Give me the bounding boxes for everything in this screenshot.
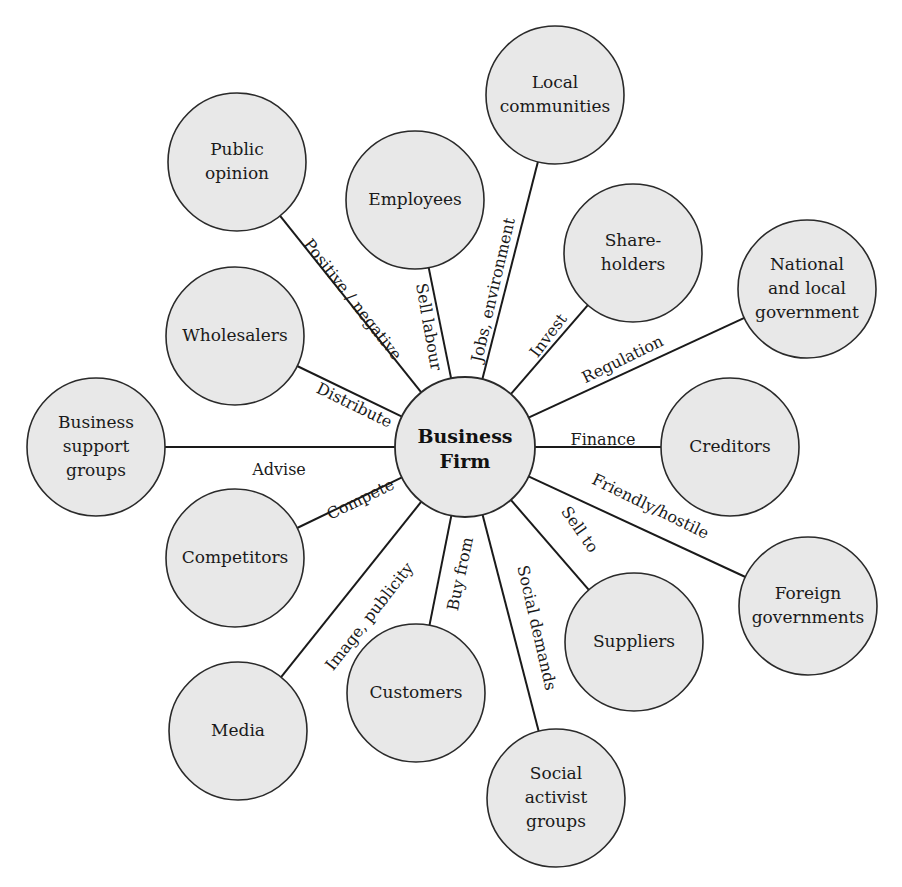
node-label-line: Customers [370,682,463,702]
node-creditors: Creditors [661,378,799,516]
node-customers: Customers [347,624,485,762]
edge-label: Distribute [314,379,396,432]
node-label-line: government [755,302,859,322]
node-label-line: Local [532,72,579,92]
edge-label: Advise [251,460,306,479]
node-label-line: groups [526,811,586,831]
node-wholesalers: Wholesalers [166,267,304,405]
node-label-line: opinion [205,163,269,183]
edge-label: Invest [526,309,571,361]
edge-label: Finance [571,430,636,449]
node-label-line: Public [210,139,264,159]
node-label-line: Employees [368,189,462,209]
edge-label: Compete [324,475,398,524]
edge-shareholders: Invest [511,305,588,394]
hub-label-line1: Business [417,425,512,447]
stakeholder-diagram: Positive / negativeSell labourJobs, envi… [0,0,902,887]
edge-social-activist-groups: Social demands [483,515,561,731]
node-label-line: Social [530,763,582,783]
node-foreign-governments: Foreigngovernments [739,537,877,675]
edge-label: Social demands [513,563,560,692]
node-label-line: Share- [605,230,662,250]
edge-label: Buy from [443,535,477,612]
node-public-opinion: Publicopinion [168,93,306,231]
diagram-canvas: Positive / negativeSell labourJobs, envi… [0,0,902,887]
hub-label-line2: Firm [440,450,491,472]
edge-customers: Buy from [429,516,477,626]
edge-business-support-groups: Advise [165,447,395,479]
node-label-line: Media [211,720,265,740]
edge-competitors: Compete [297,475,402,528]
node-social-activist-groups: Socialactivistgroups [487,729,625,867]
node-label-line: Suppliers [593,631,675,651]
node-local-communities: Localcommunities [486,26,624,164]
node-label-line: communities [500,96,610,116]
node-label-line: Wholesalers [182,325,287,345]
node-label-line: holders [601,254,665,274]
node-label-line: and local [768,278,846,298]
node-label-line: Foreign [775,583,842,603]
edge-wholesalers: Distribute [297,366,402,432]
node-label-line: activist [525,787,588,807]
node-business-support-groups: Businesssupportgroups [27,378,165,516]
node-label-line: Competitors [182,547,289,567]
edge-label: Jobs, environment [467,215,519,366]
hub-circle [395,377,535,517]
edge-label: Sell to [557,503,602,556]
business-firm-hub: Business Firm [395,377,535,517]
edge-employees: Sell labour [412,268,451,379]
node-label-line: support [63,436,130,456]
node-media: Media [169,662,307,800]
node-label-line: groups [66,460,126,480]
node-label-line: Creditors [689,436,770,456]
node-national-local-government: Nationaland localgovernment [738,220,876,358]
node-employees: Employees [346,131,484,269]
node-label-line: Business [58,412,134,432]
edge-creditors: Finance [535,430,661,449]
node-competitors: Competitors [166,489,304,627]
node-suppliers: Suppliers [565,573,703,711]
node-label-line: governments [752,607,865,627]
node-label-line: National [770,254,844,274]
node-shareholders: Share-holders [564,184,702,322]
